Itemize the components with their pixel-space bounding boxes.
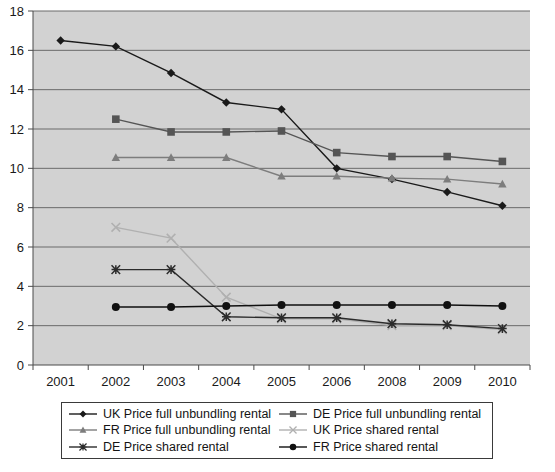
data-point-square (443, 153, 451, 161)
data-point-circle (222, 302, 230, 310)
data-point-circle (167, 303, 175, 311)
data-point-star (277, 314, 286, 323)
data-point-square (222, 128, 230, 136)
x-tick-label: 2008 (377, 374, 406, 389)
data-point-circle (333, 301, 341, 309)
data-point-star (79, 443, 86, 450)
data-point-star (222, 313, 231, 322)
data-point-circle (443, 301, 451, 309)
x-axis-ticks (33, 365, 530, 370)
chart-legend: UK Price full unbundling rentalDE Price … (61, 402, 493, 459)
legend-marker-triangle-icon (68, 423, 98, 437)
data-point-star (443, 320, 452, 329)
data-point-square (167, 128, 175, 136)
line-chart: 024681012141618 200120022003200420052006… (0, 0, 555, 472)
x-tick-label: 2009 (433, 374, 462, 389)
y-tick-label: 18 (10, 4, 24, 19)
chart-plot-area: 024681012141618 200120022003200420052006… (0, 0, 555, 400)
x-tick-label: 2001 (46, 374, 75, 389)
legend-item[interactable]: UK Price shared rental (278, 423, 488, 437)
data-point-square (499, 158, 507, 166)
x-tick-label: 2010 (488, 374, 517, 389)
y-tick-label: 2 (17, 318, 24, 333)
legend-item[interactable]: FR Price full unbundling rental (68, 423, 278, 437)
legend-item-label: UK Price shared rental (313, 424, 439, 437)
data-point-circle (498, 302, 506, 310)
data-point-square (290, 411, 296, 417)
legend-item-label: UK Price full unbundling rental (103, 408, 271, 421)
x-tick-label: 2004 (212, 374, 241, 389)
x-axis-labels: 200120022003200420052006200820092010 (46, 374, 517, 389)
legend-marker-circle-icon (278, 440, 308, 454)
y-tick-label: 16 (10, 43, 24, 58)
x-tick-label: 2005 (267, 374, 296, 389)
x-tick-label: 2002 (101, 374, 130, 389)
y-axis-ticks (28, 11, 33, 365)
legend-item-label: FR Price shared rental (313, 441, 438, 454)
data-point-circle (290, 444, 297, 451)
y-tick-label: 4 (17, 279, 24, 294)
y-tick-label: 8 (17, 200, 24, 215)
data-point-star (498, 324, 507, 333)
legend-item[interactable]: DE Price shared rental (68, 440, 278, 454)
legend-marker-square-icon (278, 407, 308, 421)
y-tick-label: 6 (17, 240, 24, 255)
data-point-star (112, 265, 121, 274)
data-point-star (167, 265, 176, 274)
data-point-diamond (80, 411, 87, 418)
legend-item-label: FR Price full unbundling rental (103, 424, 270, 437)
plot-background (33, 11, 530, 365)
y-tick-label: 14 (10, 82, 24, 97)
x-tick-label: 2006 (322, 374, 351, 389)
data-point-circle (388, 301, 396, 309)
legend-item[interactable]: DE Price full unbundling rental (278, 407, 488, 421)
data-point-square (333, 149, 341, 157)
data-point-star (388, 319, 397, 328)
y-tick-label: 12 (10, 122, 24, 137)
data-point-square (112, 115, 120, 123)
y-tick-label: 10 (10, 161, 24, 176)
data-point-square (278, 127, 286, 135)
data-point-star (332, 314, 341, 323)
legend-marker-x-icon (278, 423, 308, 437)
y-axis-labels: 024681012141618 (10, 4, 24, 373)
data-point-circle (278, 301, 286, 309)
legend-marker-star-icon (68, 440, 98, 454)
legend-marker-diamond-icon (68, 407, 98, 421)
data-point-circle (112, 303, 120, 311)
legend-item-label: DE Price shared rental (103, 441, 229, 454)
legend-item[interactable]: FR Price shared rental (278, 440, 488, 454)
legend-item[interactable]: UK Price full unbundling rental (68, 407, 278, 421)
x-tick-label: 2003 (157, 374, 186, 389)
data-point-square (388, 153, 396, 161)
y-tick-label: 0 (17, 358, 24, 373)
legend-item-label: DE Price full unbundling rental (313, 408, 481, 421)
